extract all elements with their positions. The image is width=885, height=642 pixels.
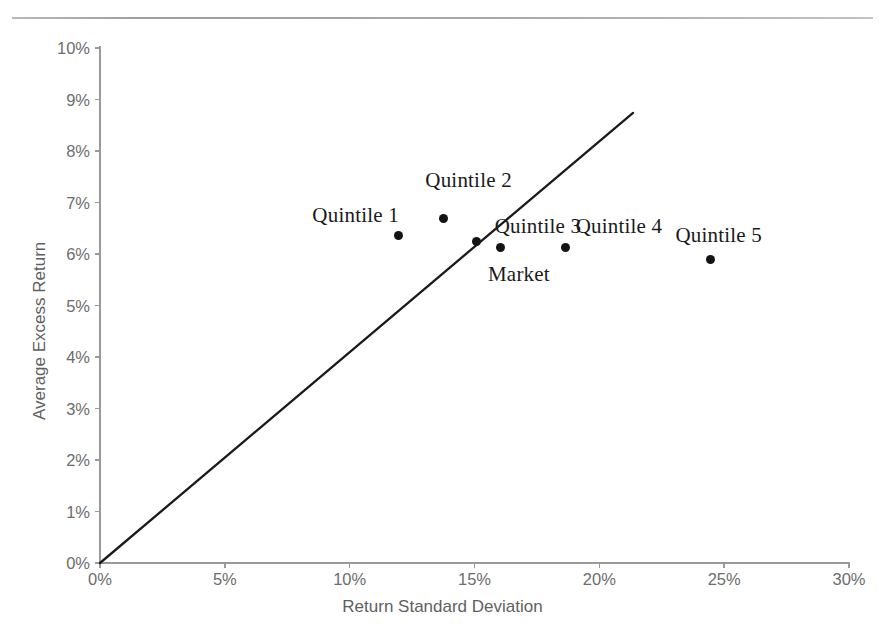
- y-tick-mark: [95, 47, 100, 48]
- figure: 0%1%2%3%4%5%6%7%8%9%10% 0%5%10%15%20%25%…: [0, 0, 885, 642]
- data-point[interactable]: [394, 231, 403, 240]
- y-tick-label: 10%: [18, 39, 90, 58]
- x-tick-label: 0%: [88, 570, 112, 589]
- data-point-label: Quintile 4: [576, 214, 663, 239]
- y-axis-title: Average Excess Return: [30, 242, 50, 420]
- x-tick-mark: [99, 563, 100, 568]
- x-tick-mark: [224, 563, 225, 568]
- y-tick-label: 1%: [18, 502, 90, 521]
- x-tick-label: 10%: [333, 570, 366, 589]
- capital-market-line-layer: [0, 0, 885, 642]
- data-point-label: Market: [488, 262, 550, 287]
- x-tick-mark: [723, 563, 724, 568]
- y-tick-mark: [95, 511, 100, 512]
- y-tick-mark: [95, 459, 100, 460]
- y-tick-mark: [95, 99, 100, 100]
- data-point[interactable]: [496, 243, 505, 252]
- data-point-label: Quintile 2: [425, 168, 512, 193]
- y-tick-label: 5%: [18, 296, 90, 315]
- y-tick-label: 6%: [18, 245, 90, 264]
- x-axis-title: Return Standard Deviation: [0, 597, 885, 617]
- data-point-label: Quintile 5: [675, 223, 762, 248]
- x-tick-label: 25%: [708, 570, 741, 589]
- data-point[interactable]: [706, 255, 715, 264]
- capital-market-line: [100, 113, 633, 563]
- data-point-label: Quintile 3: [495, 214, 582, 239]
- y-tick-mark: [95, 150, 100, 151]
- y-tick-mark: [95, 253, 100, 254]
- y-tick-mark: [95, 202, 100, 203]
- x-tick-mark: [349, 563, 350, 568]
- y-tick-mark: [95, 305, 100, 306]
- y-tick-label: 0%: [18, 554, 90, 573]
- y-tick-label: 8%: [18, 142, 90, 161]
- x-tick-label: 20%: [583, 570, 616, 589]
- y-tick-mark: [95, 356, 100, 357]
- data-point[interactable]: [439, 214, 448, 223]
- y-tick-label: 3%: [18, 399, 90, 418]
- scatter-plot: 0%1%2%3%4%5%6%7%8%9%10% 0%5%10%15%20%25%…: [0, 0, 885, 642]
- x-tick-label: 15%: [458, 570, 491, 589]
- y-tick-label: 2%: [18, 451, 90, 470]
- x-tick-mark: [599, 563, 600, 568]
- y-tick-label: 9%: [18, 90, 90, 109]
- x-tick-label: 5%: [213, 570, 237, 589]
- x-tick-mark: [848, 563, 849, 568]
- x-tick-mark: [474, 563, 475, 568]
- data-point-label: Quintile 1: [312, 203, 399, 228]
- y-tick-label: 7%: [18, 193, 90, 212]
- y-tick-mark: [95, 408, 100, 409]
- y-tick-label: 4%: [18, 348, 90, 367]
- data-point[interactable]: [561, 243, 570, 252]
- data-point[interactable]: [472, 237, 481, 246]
- x-tick-label: 30%: [832, 570, 865, 589]
